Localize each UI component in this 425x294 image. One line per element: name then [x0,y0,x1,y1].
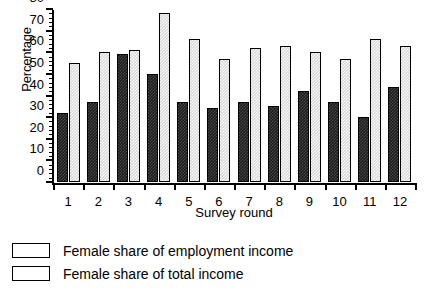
legend-label-total-income: Female share of total income [63,266,244,282]
y-axis-tick-major [46,181,53,183]
bar-employment-income [310,52,321,182]
y-axis-tick-label: 60 [30,34,44,47]
y-axis-tick-minor [49,70,53,71]
y-axis-tick-minor [49,91,53,92]
y-axis-tick-minor [49,126,53,127]
bar-employment-income [129,50,140,182]
y-axis-tick-major [46,8,53,10]
x-axis-tick [415,183,417,190]
x-axis-tick [144,183,146,190]
bar-total-income [177,102,188,182]
x-axis-tick [234,183,236,190]
x-axis-tick [325,183,327,190]
x-axis-tick [264,183,266,190]
y-axis-tick-minor [49,22,53,23]
y-axis-tick-minor [49,65,53,66]
y-axis-tick-minor [49,130,53,131]
bar-employment-income [400,46,411,182]
bar-employment-income [159,13,170,182]
y-axis-tick-minor [49,173,53,174]
bar-total-income [298,91,309,182]
y-axis-tick-minor [49,178,53,179]
x-axis-tick [83,183,85,190]
y-axis-tick-minor [49,83,53,84]
y-axis-tick-minor [49,165,53,166]
bar-employment-income [219,59,230,182]
y-axis-tick-minor [49,156,53,157]
y-axis-tick-minor [49,26,53,27]
x-axis-tick [174,183,176,190]
bar-total-income [87,102,98,182]
bar-chart-figure: Percentage 01020304050607080123456789101… [0,0,425,294]
x-axis-tick [355,183,357,190]
bar-employment-income [99,52,110,182]
x-axis-title: Survey round [53,205,415,220]
bar-employment-income [69,63,80,182]
bar-total-income [207,108,218,182]
y-axis-tick-minor [49,18,53,19]
y-axis-tick-label: 0 [37,164,44,177]
y-axis-tick-label: 30 [30,99,44,112]
bar-total-income [388,87,399,182]
plot-area: 01020304050607080123456789101112 [53,10,415,183]
y-axis-tick-minor [49,78,53,79]
legend-item: Female share of employment income [12,239,293,262]
bar-total-income [117,54,128,182]
y-axis-tick-minor [49,143,53,144]
y-axis-tick-minor [49,152,53,153]
bar-employment-income [280,46,291,182]
bar-total-income [328,102,339,182]
chart-legend: Female share of employment income Female… [12,239,293,285]
legend-swatch-total-income [12,266,50,281]
y-axis-tick-minor [49,108,53,109]
bar-employment-income [189,39,200,182]
bar-total-income [238,102,249,182]
y-axis-tick-major [46,138,53,140]
y-axis-tick-minor [49,13,53,14]
y-axis-line [52,10,54,184]
y-axis-tick-major [46,30,53,32]
y-axis-tick-minor [49,104,53,105]
legend-item: Female share of total income [12,262,293,285]
y-axis-tick-label: 80 [30,0,44,4]
y-axis-tick-major [46,116,53,118]
y-axis-tick-minor [49,87,53,88]
y-axis-tick-minor [49,121,53,122]
y-axis-tick-minor [49,113,53,114]
bar-total-income [268,106,279,182]
x-axis-tick [53,183,55,190]
y-axis-tick-minor [49,169,53,170]
legend-label-employment-income: Female share of employment income [63,243,293,259]
bar-total-income [358,117,369,182]
bar-employment-income [250,48,261,182]
y-axis-tick-minor [49,147,53,148]
y-axis-tick-minor [49,57,53,58]
bar-total-income [57,113,68,182]
bar-employment-income [340,59,351,182]
y-axis-tick-minor [49,35,53,36]
x-axis-tick [113,183,115,190]
y-axis-tick-label: 10 [30,142,44,155]
y-axis-tick-label: 40 [30,77,44,90]
y-axis-tick-minor [49,39,53,40]
y-axis-tick-minor [49,134,53,135]
y-axis-tick-label: 50 [30,55,44,68]
x-axis-tick [204,183,206,190]
bar-total-income [147,74,158,182]
y-axis-tick-major [46,95,53,97]
bar-employment-income [370,39,381,182]
y-axis-tick-label: 70 [30,12,44,25]
y-axis-tick-minor [49,100,53,101]
x-axis-tick [294,183,296,190]
y-axis-tick-minor [49,44,53,45]
y-axis-tick-minor [49,48,53,49]
y-axis-tick-major [46,159,53,161]
y-axis-tick-major [46,73,53,75]
y-axis-tick-minor [49,61,53,62]
x-axis-tick [385,183,387,190]
legend-swatch-employment-income [12,243,50,258]
y-axis-tick-label: 20 [30,120,44,133]
y-axis-tick-major [46,51,53,53]
